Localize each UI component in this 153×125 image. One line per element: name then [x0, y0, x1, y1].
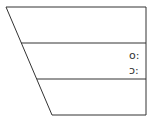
vowel-trapezoid [0, 0, 153, 125]
trapezoid-outline [6, 7, 146, 115]
vowel-label-close-mid: o: [129, 50, 139, 62]
vowel-label-open-mid: ɔ: [129, 65, 139, 77]
